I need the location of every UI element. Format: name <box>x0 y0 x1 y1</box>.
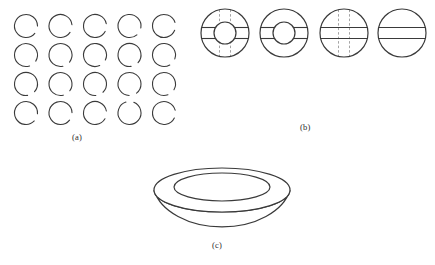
panel-b-shape-0 <box>201 9 249 57</box>
panel-label-a: (a) <box>72 132 82 142</box>
gapped-circle-18 <box>118 102 141 124</box>
gapped-circle-19 <box>153 102 176 125</box>
gapped-circle-7 <box>84 44 107 67</box>
torus-inner-hole <box>174 173 270 201</box>
panel-b-shape-3 <box>378 9 426 57</box>
figure-canvas <box>0 0 435 265</box>
panel-b-annulus-sequence <box>201 9 426 57</box>
gapped-circle-12 <box>84 72 107 95</box>
gapped-circle-3 <box>118 14 141 37</box>
outer-circle <box>320 9 368 57</box>
panel-c-torus <box>154 168 290 227</box>
panel-b-shape-2 <box>320 9 368 57</box>
panel-a-circle-grid <box>14 14 175 124</box>
gapped-circle-0 <box>15 14 38 37</box>
panel-label-b: (b) <box>300 122 311 132</box>
gapped-circle-9 <box>153 43 176 66</box>
panel-label-c: (c) <box>212 240 222 250</box>
gapped-circle-5 <box>14 44 37 67</box>
gapped-circle-4 <box>153 14 175 37</box>
gapped-circle-14 <box>152 73 175 96</box>
gapped-circle-6 <box>49 44 72 67</box>
gapped-circle-11 <box>49 73 72 96</box>
gapped-circle-15 <box>14 102 37 125</box>
gapped-circle-13 <box>118 72 141 95</box>
gapped-circle-17 <box>84 101 107 124</box>
gapped-circle-16 <box>49 102 72 125</box>
figure-root: (a) (b) (c) <box>0 0 435 265</box>
gapped-circle-8 <box>118 44 141 67</box>
gapped-circle-2 <box>83 14 106 37</box>
outer-circle <box>378 9 426 57</box>
gapped-circle-10 <box>15 73 38 96</box>
panel-b-shape-1 <box>260 9 308 57</box>
gapped-circle-1 <box>49 14 72 37</box>
